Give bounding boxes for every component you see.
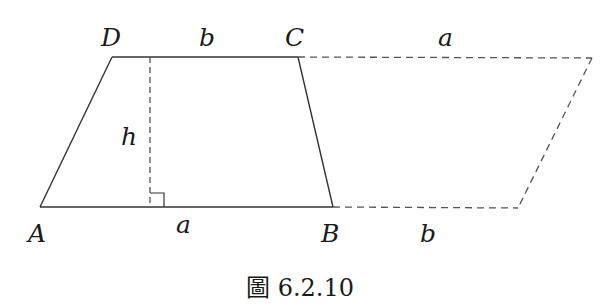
side-label-bottom-b: b bbox=[420, 219, 436, 248]
top-extension-line bbox=[298, 57, 592, 58]
side-bc bbox=[298, 57, 333, 207]
trapezoid-abcd bbox=[40, 57, 333, 207]
bottom-extension-line bbox=[333, 207, 518, 208]
vertex-label-a: A bbox=[26, 219, 46, 248]
side-da bbox=[40, 57, 112, 207]
right-slant-line bbox=[518, 58, 592, 208]
vertex-label-b: B bbox=[320, 219, 339, 248]
right-angle-icon bbox=[150, 193, 164, 207]
side-label-top-a: a bbox=[438, 23, 453, 52]
parallelogram-extension bbox=[298, 57, 592, 208]
side-label-top-b: b bbox=[199, 23, 215, 52]
vertex-label-d: D bbox=[100, 23, 121, 52]
trapezoid-parallelogram-diagram: D C A B b a h a b 圖 6.2.10 bbox=[0, 0, 608, 305]
figure-caption: 圖 6.2.10 bbox=[246, 274, 354, 302]
vertex-label-c: C bbox=[285, 23, 304, 52]
height-marker bbox=[150, 57, 164, 207]
side-label-height-h: h bbox=[121, 122, 137, 151]
side-label-bottom-a: a bbox=[176, 210, 191, 239]
